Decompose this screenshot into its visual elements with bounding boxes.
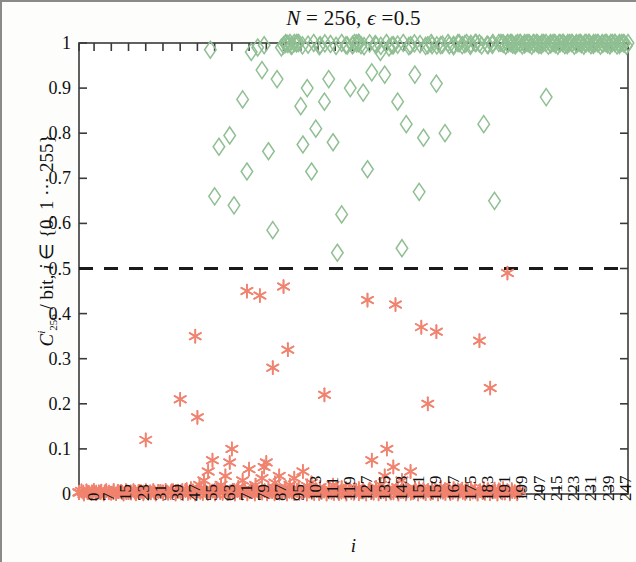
figure-container: N = 256, ϵ =0.5 Ci256 / bit, i ∈ {0, 1 ⋯… bbox=[0, 0, 636, 562]
x-tick-label: 55 bbox=[203, 484, 220, 501]
x-tick-label: 175 bbox=[462, 476, 479, 502]
y-tick-label: 0.5 bbox=[11, 260, 71, 278]
x-tick-label: 159 bbox=[427, 476, 444, 502]
x-tick-label: 239 bbox=[600, 476, 617, 502]
x-tick-label: 103 bbox=[307, 476, 324, 502]
x-tick-label: 63 bbox=[221, 484, 238, 501]
x-tick-label: 215 bbox=[548, 476, 565, 502]
y-tick-label: 0.9 bbox=[11, 79, 71, 97]
x-tick-label: 23 bbox=[135, 484, 152, 501]
x-tick-label: 79 bbox=[255, 484, 272, 501]
y-tick-label: 0.2 bbox=[11, 395, 71, 413]
y-tick-label: 0.1 bbox=[11, 440, 71, 458]
x-tick-label: 191 bbox=[496, 476, 513, 502]
x-tick-label: 143 bbox=[393, 476, 410, 502]
y-tick-label: 1 bbox=[11, 34, 71, 52]
x-tick-label: 39 bbox=[169, 484, 186, 501]
x-tick-label: 71 bbox=[238, 484, 255, 501]
x-tick-label: 231 bbox=[582, 476, 599, 502]
x-tick-label: 199 bbox=[513, 476, 530, 502]
x-tick-label: 223 bbox=[565, 476, 582, 502]
x-tick-label: 207 bbox=[531, 476, 548, 502]
y-tick-label: 0 bbox=[11, 485, 71, 503]
x-tick-label: 135 bbox=[376, 476, 393, 502]
y-tick-label: 0.7 bbox=[11, 169, 71, 187]
x-tick-label: 95 bbox=[290, 484, 307, 501]
x-tick-label: 247 bbox=[617, 476, 634, 502]
x-tick-label: 15 bbox=[117, 484, 134, 501]
y-tick-label: 0.3 bbox=[11, 350, 71, 368]
x-tick-label: 151 bbox=[410, 476, 427, 502]
x-tick-label: 87 bbox=[272, 484, 289, 501]
y-tick-label: 0.4 bbox=[11, 305, 71, 323]
x-tick-label: 7 bbox=[100, 493, 117, 502]
x-tick-label: 119 bbox=[341, 476, 358, 501]
x-tick-label: 167 bbox=[445, 476, 462, 502]
x-tick-label: 127 bbox=[358, 476, 375, 502]
y-tick-label: 0.6 bbox=[11, 214, 71, 232]
y-tick-label: 0.8 bbox=[11, 124, 71, 142]
x-tick-label: 111 bbox=[324, 477, 341, 501]
x-tick-label: 31 bbox=[152, 484, 169, 501]
x-tick-label: 183 bbox=[479, 476, 496, 502]
x-tick-label: 47 bbox=[186, 484, 203, 501]
